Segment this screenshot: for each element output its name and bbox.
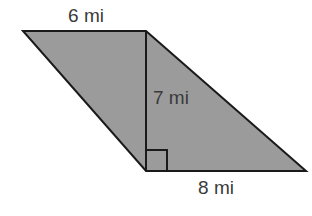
top-side-label: 6 mi [68,5,104,26]
parallelogram-diagram: 6 mi 7 mi 8 mi [0,0,312,216]
bottom-side-label: 8 mi [198,177,234,198]
height-label: 7 mi [153,87,189,108]
